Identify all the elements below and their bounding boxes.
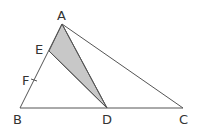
label-a: A — [57, 8, 66, 23]
shaded-triangle-aed — [49, 24, 107, 108]
triangle-diagram: A B C D E F — [0, 0, 200, 134]
label-d: D — [102, 112, 112, 127]
segment-ab — [20, 24, 62, 108]
label-f: F — [22, 73, 29, 88]
label-e: E — [35, 42, 43, 57]
label-b: B — [13, 112, 22, 127]
label-c: C — [179, 112, 188, 127]
